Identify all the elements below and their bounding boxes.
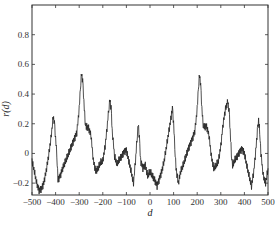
- x-tick-label: −400: [46, 197, 65, 207]
- x-tick-label: −500: [23, 197, 42, 207]
- x-tick-label: −100: [117, 197, 136, 207]
- x-tick-label: 500: [261, 197, 275, 207]
- x-tick-label: −200: [94, 197, 113, 207]
- x-tick-label: 200: [190, 197, 204, 207]
- y-tick-label: −0.2: [13, 178, 29, 188]
- data-series-line: [32, 74, 268, 194]
- y-tick-label: 0.2: [18, 119, 29, 129]
- x-tick-label: 300: [214, 197, 228, 207]
- y-axis-ticks: −0.200.20.40.60.8: [13, 30, 268, 188]
- y-tick-label: 0.8: [18, 30, 30, 40]
- x-axis-label: d: [148, 207, 154, 218]
- y-axis-label: r(d): [0, 100, 12, 116]
- y-tick-label: 0.4: [18, 89, 30, 99]
- x-tick-label: 100: [167, 197, 181, 207]
- line-chart: −500−400−300−200−1000100200300400500 −0.…: [0, 0, 277, 228]
- y-tick-label: 0: [25, 148, 30, 158]
- x-tick-label: 0: [148, 197, 153, 207]
- x-tick-label: 400: [238, 197, 252, 207]
- y-tick-label: 0.6: [18, 59, 30, 69]
- x-tick-label: −300: [70, 197, 89, 207]
